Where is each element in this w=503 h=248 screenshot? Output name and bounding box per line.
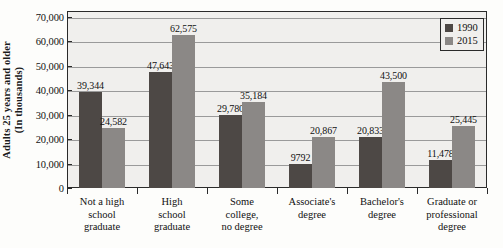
y-axis-tick-mark [67,164,72,165]
y-axis-tick-label: 50,000 [24,60,64,71]
bar-1990-4 [359,137,382,188]
bar-2015-0 [102,128,125,188]
x-axis-category-label: Graduate orprofessionaldegree [417,196,487,234]
x-axis-label-line: Associate's [277,196,347,209]
bar-1990-5 [429,160,452,188]
legend-label-2015: 2015 [457,35,478,46]
bar-value-label: 20,867 [305,125,343,136]
legend-swatch-1990 [445,24,453,32]
bar-1990-2 [219,115,242,188]
bar-2015-5 [452,126,475,188]
x-axis-tick-mark [487,188,488,194]
plot-area [67,11,487,188]
bar-2015-1 [172,35,195,188]
x-axis-category-label: Highschoolgraduate [137,196,207,234]
legend-item-1990: 1990 [445,21,478,34]
gridline [68,42,486,43]
x-axis-label-line: Some [207,196,277,209]
x-axis-tick-mark [347,188,348,194]
x-axis-label-line: Not a high [67,196,137,209]
y-axis-tick-label: 20,000 [24,134,64,145]
y-axis-tick-label: 70,000 [24,12,64,23]
x-axis-tick-mark [277,188,278,194]
y-axis-tick-label: 60,000 [24,36,64,47]
y-axis-tick-mark [67,115,72,116]
bar-value-label: 35,184 [235,90,273,101]
y-axis-title-line1: Adults 25 years and older [1,41,13,158]
legend-item-2015: 2015 [445,34,478,47]
bar-value-label: 62,575 [165,23,203,34]
gridline [68,18,486,19]
x-axis-label-line: school [137,209,207,222]
gridline [68,67,486,68]
y-axis-tick-label: 0 [24,183,64,194]
x-axis-label-line: graduate [67,221,137,234]
gridline [68,91,486,92]
y-axis-tick-label: 40,000 [24,85,64,96]
y-axis-tick-label: 30,000 [24,109,64,120]
x-axis-category-label: Bachelor'sdegree [347,196,417,221]
x-axis-tick-mark [67,188,68,194]
x-axis-label-line: no degree [207,221,277,234]
x-axis-label-line: professional [417,209,487,222]
y-axis-tick-labels: 70,00060,00050,00040,00030,00020,00010,0… [22,0,64,248]
x-axis-label-line: college, [207,209,277,222]
bar-value-label: 43,500 [375,70,413,81]
x-axis-label-line: school [67,209,137,222]
legend: 1990 2015 [440,18,484,51]
x-axis-label-line: degree [417,221,487,234]
bar-value-label: 25,445 [445,114,483,125]
x-axis-tick-mark [137,188,138,194]
x-axis-category-label: Not a highschoolgraduate [67,196,137,234]
x-axis-label-line: degree [347,209,417,222]
x-axis-category-label: Somecollege,no degree [207,196,277,234]
x-axis-label-line: Graduate or [417,196,487,209]
bar-2015-3 [312,137,335,188]
x-axis-label-line: Bachelor's [347,196,417,209]
x-axis-tick-mark [207,188,208,194]
gridline [68,140,486,141]
legend-label-1990: 1990 [457,22,478,33]
x-axis-label-line: High [137,196,207,209]
legend-swatch-2015 [445,37,453,45]
bar-value-label: 39,344 [72,80,110,91]
y-axis-tick-mark [67,139,72,140]
y-axis-tick-mark [67,66,72,67]
bar-1990-1 [149,72,172,188]
y-axis-tick-mark [67,17,72,18]
x-axis-label-line: graduate [137,221,207,234]
bar-1990-0 [79,92,102,188]
bar-value-label: 24,582 [95,116,133,127]
x-axis-category-label: Associate'sdegree [277,196,347,221]
bar-2015-4 [382,82,405,188]
bar-chart-figure: Adults 25 years and older (In thousands)… [0,0,503,248]
gridline [68,165,486,166]
bar-1990-3 [289,164,312,188]
y-axis-tick-label: 10,000 [24,158,64,169]
x-axis-label-line: degree [277,209,347,222]
x-axis-tick-mark [417,188,418,194]
y-axis-tick-mark [67,41,72,42]
bar-2015-2 [242,102,265,188]
